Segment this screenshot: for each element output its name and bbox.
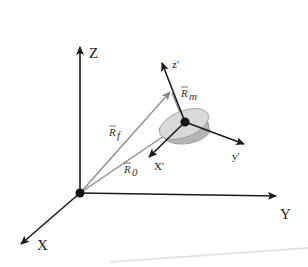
svg-text:R: R: [108, 126, 116, 138]
svg-text:m: m: [189, 90, 197, 102]
x-axis: [21, 193, 80, 244]
origin-dot: [76, 189, 85, 198]
coordinate-diagram: Z Y X z' y' X' R f R m R: [0, 0, 308, 267]
y-axis: [80, 193, 276, 196]
r-0-label: R 0: [123, 163, 138, 178]
r-f-label: R f: [108, 126, 122, 141]
x-prime-label: X': [154, 160, 164, 172]
svg-text:R: R: [180, 87, 188, 99]
z-prime-label: z': [172, 58, 179, 70]
global-axes: Z Y X: [21, 45, 291, 253]
r-m-label: R m: [180, 87, 197, 102]
svg-text:f: f: [117, 129, 122, 141]
svg-text:0: 0: [132, 166, 138, 178]
y-prime-label: y': [232, 150, 240, 162]
page-edge: [110, 248, 308, 262]
x-axis-label: X: [37, 237, 48, 253]
r-f-vector: [80, 92, 170, 193]
z-axis-label: Z: [89, 45, 98, 61]
svg-text:R: R: [123, 163, 131, 175]
y-axis-label: Y: [280, 206, 291, 222]
